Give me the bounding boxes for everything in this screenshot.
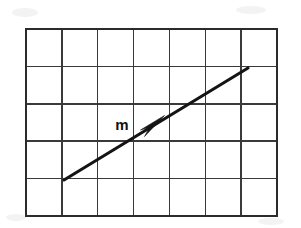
vector-diagram: Vector m on a grid m xyxy=(0,0,301,228)
figure-canvas: Vector m on a grid m xyxy=(0,0,301,228)
grid-border xyxy=(26,29,277,216)
vector-arrowhead-icon xyxy=(141,116,165,137)
vector-label-m: m xyxy=(115,116,128,133)
vector-arrow xyxy=(64,68,248,180)
grid-lines xyxy=(26,29,277,216)
